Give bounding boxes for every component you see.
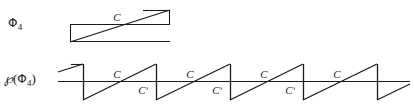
figure-container: Φ4 ℘(Φ4) C — [0, 0, 414, 109]
diagram-svg: C C C C C — [0, 0, 414, 109]
sawtooth-ramp-5-partial — [377, 84, 410, 100]
bottom-curve-label-c-4: C — [333, 68, 341, 80]
bottom-curve-label-c-prime-1: Cʹ — [138, 84, 148, 96]
bottom-curve-label-c-prime-2: Cʹ — [212, 84, 222, 96]
bottom-curve-label-c-prime-3: Cʹ — [285, 84, 295, 96]
bottom-curve-label-c-3: C — [260, 68, 268, 80]
sawtooth-leading-partial-ramp — [58, 64, 83, 72]
bottom-panel-group: C C C C Cʹ Cʹ Cʹ — [58, 64, 410, 100]
top-curve-label-c: C — [113, 11, 121, 23]
bottom-curve-label-c-1: C — [113, 68, 121, 80]
top-panel-group: C — [70, 10, 170, 42]
bottom-curve-label-c-2: C — [186, 68, 194, 80]
